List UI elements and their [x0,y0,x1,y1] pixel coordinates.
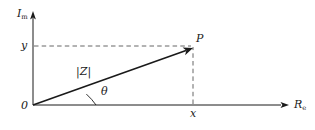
complex-plane-impedance-phasor-diagram: Im Re 0 y x |Z| θ P [0,0,315,130]
magnitude-bar-right: | [87,65,91,78]
theta-angle-arc [86,94,96,105]
imaginary-axis [30,11,36,105]
x-tick-label: x [190,108,196,119]
impedance-magnitude-label: |Z| [76,66,91,77]
point-p-label: P [196,33,203,44]
imaginary-axis-label: Im [17,8,28,20]
real-axis-subscript: e [302,104,306,112]
real-axis [33,102,289,108]
impedance-vector-line [33,51,186,106]
y-tick-label: y [21,40,27,51]
impedance-vector [33,48,193,105]
diagram-canvas [0,0,315,130]
origin-label: 0 [21,100,28,111]
real-axis-arrowhead [281,102,290,108]
imaginary-axis-subscript: m [21,13,27,21]
real-axis-label: Re [294,99,306,111]
theta-angle-label: θ [101,86,108,97]
